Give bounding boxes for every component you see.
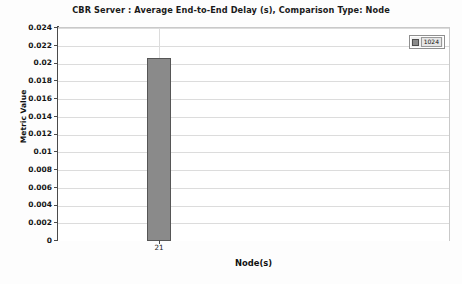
chart-legend[interactable]: 1024 (409, 35, 445, 49)
y-axis-tick-label: 0.024 (0, 23, 52, 32)
y-axis-tick-mark (54, 169, 58, 170)
y-axis-tick-label: 0.002 (0, 218, 52, 227)
y-axis-tick-label: 0.018 (0, 76, 52, 85)
y-axis-tick-mark (54, 27, 58, 28)
y-axis-tick-mark (54, 222, 58, 223)
x-axis-title: Node(s) (58, 258, 449, 268)
y-axis-tick-label: 0.02 (0, 58, 52, 67)
gridline (58, 81, 449, 82)
chart-container: CBR Server : Average End-to-End Delay (s… (0, 0, 462, 284)
legend-item[interactable]: 1024 (412, 37, 442, 47)
y-axis-tick-mark (54, 45, 58, 46)
gridline (58, 64, 449, 65)
gridline (58, 46, 449, 47)
y-axis-tick-mark (54, 116, 58, 117)
y-axis-tick-mark (54, 98, 58, 99)
y-axis-tick-label: 0.006 (0, 183, 52, 192)
gridline (58, 188, 449, 189)
y-axis-tick-label: 0.016 (0, 94, 52, 103)
gridline (58, 135, 449, 136)
y-axis-tick-label: 0 (0, 236, 52, 245)
y-axis-tick-mark (54, 240, 58, 241)
gridline (58, 99, 449, 100)
gridline (58, 117, 449, 118)
gridline (58, 223, 449, 224)
y-axis-tick-mark (54, 63, 58, 64)
bar[interactable] (147, 58, 171, 241)
y-axis-tick-mark (54, 134, 58, 135)
y-axis-tick-mark (54, 80, 58, 81)
legend-swatch-icon (412, 39, 419, 46)
gridline (58, 170, 449, 171)
y-axis-tick-mark (54, 205, 58, 206)
y-axis-tick-mark (54, 151, 58, 152)
y-axis-tick-mark (54, 187, 58, 188)
gridline (58, 152, 449, 153)
y-axis-tick-label: 0.014 (0, 112, 52, 121)
y-axis-tick-label: 0.008 (0, 165, 52, 174)
x-axis-tick-label: 21 (154, 243, 163, 252)
y-axis-tick-label: 0.004 (0, 200, 52, 209)
x-axis-tick-mark (159, 240, 160, 244)
chart-title: CBR Server : Average End-to-End Delay (s… (0, 5, 462, 15)
gridline (58, 206, 449, 207)
legend-item-label: 1024 (421, 37, 442, 47)
gridline (58, 28, 449, 29)
plot-area: 1024 (58, 27, 450, 241)
y-axis-tick-label: 0.022 (0, 41, 52, 50)
y-axis-tick-label: 0.012 (0, 129, 52, 138)
y-axis-tick-label: 0.01 (0, 147, 52, 156)
